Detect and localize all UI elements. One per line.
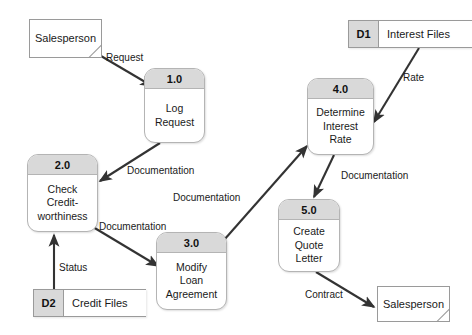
process-3-name-line-2: Loan — [180, 274, 203, 287]
process-3-modify-loan-agreement[interactable]: 3.0 Modify Loan Agreement — [156, 232, 227, 310]
data-flow-diagram: Salesperson Salesperson 1.0 Log Request … — [0, 0, 472, 335]
flow-arrow-documentation-4-5 — [314, 155, 334, 197]
process-4-name-line-3: Rate — [329, 133, 351, 146]
process-5-create-quote-letter[interactable]: 5.0 Create Quote Letter — [278, 199, 340, 272]
process-5-name-line-2: Quote — [295, 239, 324, 252]
process-3-name: Modify Loan Agreement — [157, 253, 226, 309]
datastore-d2-label: Credit Files — [64, 290, 146, 316]
process-4-determine-interest-rate[interactable]: 4.0 Determine Interest Rate — [307, 78, 374, 155]
process-5-name-line-1: Create — [293, 225, 325, 238]
flow-label-contract: Contract — [305, 290, 343, 300]
datastore-d2-credit-files[interactable]: D2 Credit Files — [33, 289, 146, 317]
process-1-name: Log Request — [145, 89, 204, 142]
datastore-d1-interest-files[interactable]: D1 Interest Files — [348, 20, 472, 48]
datastore-d2-code: D2 — [33, 290, 64, 316]
process-2-number: 2.0 — [28, 155, 97, 175]
flow-label-documentation-2-3: Documentation — [99, 222, 166, 232]
process-1-name-line-2: Request — [155, 116, 194, 129]
flow-arrow-documentation-2-3 — [93, 227, 158, 266]
entity-corner-slash-icon — [86, 42, 102, 58]
process-4-name: Determine Interest Rate — [308, 99, 373, 154]
flow-label-request: Request — [106, 53, 143, 63]
process-1-number: 1.0 — [145, 69, 204, 89]
entity-corner-slash-icon — [434, 306, 450, 322]
process-2-name-line-3: worthiness — [37, 210, 87, 223]
process-2-name: Check Credit- worthiness — [28, 175, 97, 231]
process-2-name-line-1: Check — [48, 183, 78, 196]
entity-salesperson-sink[interactable]: Salesperson — [377, 286, 450, 322]
process-1-name-line-1: Log — [166, 102, 184, 115]
flow-label-documentation-4-5: Documentation — [341, 171, 408, 181]
process-3-number: 3.0 — [157, 233, 226, 253]
process-4-name-line-2: Interest — [323, 120, 358, 133]
process-1-log-request[interactable]: 1.0 Log Request — [144, 68, 205, 143]
process-3-name-line-1: Modify — [176, 261, 207, 274]
process-3-name-line-3: Agreement — [166, 288, 217, 301]
flow-label-rate: Rate — [403, 73, 424, 83]
process-4-number: 4.0 — [308, 79, 373, 99]
process-5-number: 5.0 — [279, 200, 339, 220]
flow-label-documentation-1-2: Documentation — [127, 166, 194, 176]
flow-arrow-rate — [374, 48, 419, 122]
process-4-name-line-1: Determine — [316, 106, 364, 119]
flow-label-documentation-3-4: Documentation — [173, 193, 240, 203]
process-2-name-line-2: Credit- — [47, 196, 79, 209]
process-5-name: Create Quote Letter — [279, 220, 339, 271]
process-5-name-line-3: Letter — [296, 252, 323, 265]
datastore-d1-code: D1 — [348, 21, 379, 47]
flow-label-status: Status — [59, 263, 87, 273]
process-2-check-creditworthiness[interactable]: 2.0 Check Credit- worthiness — [27, 154, 98, 232]
datastore-d1-label: Interest Files — [379, 21, 472, 47]
entity-salesperson-source[interactable]: Salesperson — [29, 19, 102, 58]
